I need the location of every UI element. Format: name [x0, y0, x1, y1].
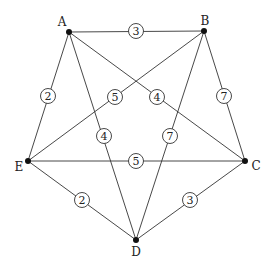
weight-label-E-D: 2: [79, 194, 86, 207]
graph-svg: 3244577523 ABCDE: [0, 0, 274, 275]
weight-label-A-C: 4: [154, 91, 161, 104]
weight-label-A-B: 3: [133, 25, 140, 38]
edges-layer: [28, 31, 245, 240]
weight-label-A-E: 2: [45, 90, 52, 103]
node-B: [201, 28, 207, 34]
nodes-layer: ABCDE: [15, 14, 261, 259]
weight-label-E-C: 5: [133, 155, 140, 168]
node-C: [242, 158, 248, 164]
node-A: [66, 29, 72, 35]
node-E: [25, 158, 31, 164]
weight-label-B-E: 5: [112, 91, 119, 104]
node-label-B: B: [201, 14, 210, 28]
node-label-D: D: [131, 245, 141, 259]
weight-label-A-D: 4: [101, 130, 108, 143]
node-label-E: E: [15, 160, 24, 174]
node-label-A: A: [57, 15, 67, 29]
weight-label-D-C: 3: [187, 194, 194, 207]
weight-label-B-D: 7: [167, 130, 174, 143]
node-D: [133, 237, 139, 243]
node-label-C: C: [251, 159, 260, 173]
weight-label-B-C: 7: [221, 90, 228, 103]
weights-layer: 3244577523: [41, 24, 232, 208]
weighted-graph-diagram: 3244577523 ABCDE: [0, 0, 274, 275]
